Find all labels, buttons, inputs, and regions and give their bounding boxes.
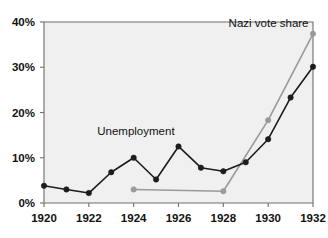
y-tick-label: 0%: [18, 197, 35, 209]
data-point: [221, 189, 226, 194]
x-axis-tick-marks: [44, 203, 313, 207]
data-point: [86, 190, 91, 195]
data-point: [64, 187, 69, 192]
data-point: [265, 137, 270, 142]
data-point: [265, 117, 270, 122]
data-point: [198, 165, 203, 170]
data-point: [310, 31, 315, 36]
line-chart: 0%10%20%30%40% 1920192219241926192819301…: [0, 0, 328, 238]
x-tick-label: 1932: [300, 212, 326, 224]
data-point: [131, 155, 136, 160]
x-tick-label: 1926: [166, 212, 192, 224]
y-tick-label: 20%: [12, 107, 35, 119]
y-tick-label: 10%: [12, 152, 35, 164]
y-tick-label: 40%: [12, 16, 35, 28]
chart-container: 0%10%20%30%40% 1920192219241926192819301…: [0, 0, 328, 238]
data-point: [288, 95, 293, 100]
y-axis-tick-labels: 0%10%20%30%40%: [12, 16, 35, 209]
data-point: [243, 160, 248, 165]
y-tick-label: 30%: [12, 61, 35, 73]
data-point: [310, 64, 315, 69]
y-axis-tick-marks: [40, 22, 44, 203]
data-point: [153, 177, 158, 182]
series-annotation-label: Unemployment: [97, 125, 175, 137]
x-tick-label: 1928: [211, 212, 237, 224]
x-tick-label: 1920: [31, 212, 57, 224]
data-point: [131, 187, 136, 192]
x-axis-tick-labels: 1920192219241926192819301932: [31, 212, 326, 224]
x-tick-label: 1930: [255, 212, 281, 224]
data-point: [41, 183, 46, 188]
data-point: [221, 169, 226, 174]
series-annotation-label: Nazi vote share: [229, 17, 309, 29]
data-point: [176, 144, 181, 149]
x-tick-label: 1924: [121, 212, 147, 224]
x-tick-label: 1922: [76, 212, 102, 224]
data-point: [109, 170, 114, 175]
